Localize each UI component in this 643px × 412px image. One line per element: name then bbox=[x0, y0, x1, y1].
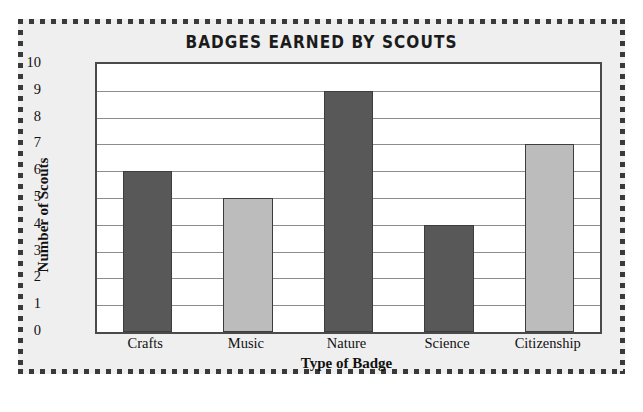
y-axis-tick-label: 2 bbox=[15, 269, 41, 284]
bar-slot bbox=[499, 64, 600, 332]
x-axis-tick-label: Nature bbox=[296, 335, 397, 352]
plot-area bbox=[95, 62, 602, 334]
x-axis-tick-label: Crafts bbox=[95, 335, 196, 352]
bar-nature[interactable] bbox=[324, 91, 373, 332]
y-axis-tick-label: 3 bbox=[15, 243, 41, 258]
x-axis-tick-label: Music bbox=[196, 335, 297, 352]
y-axis-tick-label: 0 bbox=[15, 323, 41, 338]
y-axis-tick-label: 5 bbox=[15, 189, 41, 204]
y-axis-tick-label: 1 bbox=[15, 296, 41, 311]
y-axis-tick-label: 6 bbox=[15, 162, 41, 177]
frame-border-top bbox=[18, 19, 625, 24]
chart-figure-frame: BADGES EARNED BY SCOUTS Number of Scouts… bbox=[18, 19, 625, 374]
x-axis-tick-label: Citizenship bbox=[497, 335, 598, 352]
bar-slot bbox=[198, 64, 299, 332]
y-axis-tick-label: 10 bbox=[15, 55, 41, 70]
frame-border-right bbox=[620, 19, 625, 374]
bar-music[interactable] bbox=[223, 198, 272, 332]
x-axis-tick-labels: CraftsMusicNatureScienceCitizenship bbox=[95, 335, 598, 352]
bar-slot bbox=[97, 64, 198, 332]
y-axis-tick-label: 9 bbox=[15, 82, 41, 97]
bar-citizenship[interactable] bbox=[525, 144, 574, 332]
x-axis-title: Type of Badge bbox=[95, 355, 598, 372]
bar-series bbox=[97, 64, 600, 332]
bar-slot bbox=[298, 64, 399, 332]
y-axis-tick-label: 4 bbox=[15, 216, 41, 231]
bar-crafts[interactable] bbox=[123, 171, 172, 332]
x-axis-tick-label: Science bbox=[397, 335, 498, 352]
y-axis-tick-label: 8 bbox=[15, 109, 41, 124]
bar-slot bbox=[399, 64, 500, 332]
bar-science[interactable] bbox=[424, 225, 473, 332]
y-axis-tick-label: 7 bbox=[15, 135, 41, 150]
chart-title: BADGES EARNED BY SCOUTS bbox=[48, 32, 594, 52]
